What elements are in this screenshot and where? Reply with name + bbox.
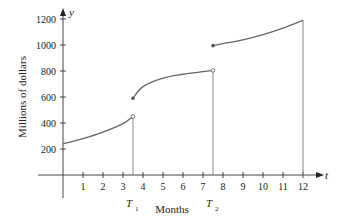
open-endpoint: [131, 115, 135, 119]
chart: 12345678910111220040060080010001200T1T2 …: [0, 0, 345, 224]
x-tick-label: 6: [181, 181, 186, 192]
x-tick-label: 1: [81, 181, 86, 192]
closed-endpoint: [131, 97, 135, 101]
curve-segment-2: [133, 70, 213, 98]
y-tick-label: 400: [41, 118, 56, 129]
y-axis-var: y: [68, 6, 74, 18]
t-marker-subscript: 2: [215, 205, 219, 213]
y-tick-label: 1000: [36, 40, 56, 51]
t-marker-subscript: 1: [135, 205, 139, 213]
x-tick-label: 5: [161, 181, 166, 192]
x-axis-arrow-icon: [316, 172, 324, 178]
y-tick-label: 800: [41, 66, 56, 77]
x-tick-label: 3: [121, 181, 126, 192]
x-tick-label: 11: [278, 181, 288, 192]
closed-endpoint: [211, 44, 215, 48]
x-tick-label: 7: [201, 181, 206, 192]
y-axis-arrow-icon: [60, 8, 66, 16]
open-endpoint: [211, 69, 215, 73]
curves: [63, 20, 303, 144]
x-axis-var: t: [325, 169, 329, 181]
t-marker-label: T: [206, 197, 213, 209]
endpoints: [131, 44, 215, 118]
x-tick-label: 8: [221, 181, 226, 192]
x-tick-label: 10: [258, 181, 268, 192]
y-tick-label: 600: [41, 92, 56, 103]
y-tick-label: 1200: [36, 14, 56, 25]
curve-segment-3: [213, 20, 303, 45]
y-axis-label: Millions of dollars: [16, 56, 28, 138]
x-tick-label: 12: [298, 181, 308, 192]
t-marker-label: T: [126, 197, 133, 209]
vertical-lines: [133, 20, 303, 175]
x-tick-label: 9: [241, 181, 246, 192]
x-tick-label: 4: [141, 181, 146, 192]
y-tick-label: 200: [41, 144, 56, 155]
curve-segment-1: [63, 117, 133, 144]
x-axis-label: Months: [155, 203, 189, 215]
axes: 12345678910111220040060080010001200T1T2: [36, 8, 324, 213]
x-tick-label: 2: [101, 181, 106, 192]
